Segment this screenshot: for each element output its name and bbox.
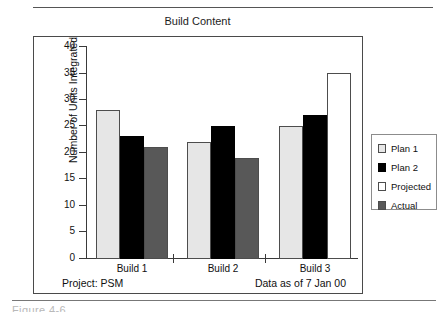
y-axis-tick bbox=[79, 231, 87, 232]
y-axis-tick-label: 10 bbox=[34, 200, 75, 210]
legend-item-plan-2: Plan 2 bbox=[378, 161, 418, 173]
legend-label-plan-1: Plan 1 bbox=[391, 143, 418, 154]
bar-build1-actual bbox=[144, 147, 168, 259]
y-axis-tick bbox=[79, 46, 87, 47]
y-axis-tick bbox=[79, 152, 87, 153]
legend-swatch-icon-actual bbox=[378, 201, 386, 210]
y-axis-tick bbox=[79, 258, 87, 259]
y-axis-tick bbox=[79, 99, 87, 100]
legend-swatch-icon-projected bbox=[378, 182, 386, 191]
y-axis-tick bbox=[79, 125, 87, 126]
legend-label-plan-2: Plan 2 bbox=[391, 162, 418, 173]
legend-item-projected: Projected bbox=[378, 180, 431, 192]
bar-build1-plan1 bbox=[96, 110, 120, 259]
figure-caption: Figure 4-6. bbox=[12, 304, 192, 312]
legend-label-actual: Actual bbox=[391, 200, 417, 211]
y-axis-tick bbox=[79, 73, 87, 74]
figure-top-rule bbox=[33, 7, 433, 8]
y-axis-tick-label: 35 bbox=[34, 68, 75, 78]
footer-data-date: Data as of 7 Jan 00 bbox=[255, 277, 346, 290]
y-axis-tick bbox=[79, 178, 87, 179]
plot-frame: Number of Units Integrated 40 35 30 25 2… bbox=[33, 36, 363, 294]
y-axis-tick-label: 20 bbox=[34, 147, 75, 157]
chart-title: Build Content bbox=[0, 15, 395, 28]
bar-build2-actual bbox=[235, 158, 259, 259]
x-axis-label-build-3: Build 3 bbox=[275, 263, 355, 275]
legend-item-plan-1: Plan 1 bbox=[378, 142, 418, 154]
y-axis-tick bbox=[79, 205, 87, 206]
x-axis-label-build-1: Build 1 bbox=[92, 263, 172, 275]
figure-bottom-rule bbox=[12, 300, 436, 301]
bar-build3-projected bbox=[327, 73, 351, 259]
bar-build2-plan1 bbox=[187, 142, 211, 259]
bar-build3-plan1 bbox=[279, 126, 303, 259]
x-axis-group-separator bbox=[173, 254, 174, 263]
y-axis-tick-label: 25 bbox=[34, 120, 75, 130]
legend-label-projected: Projected bbox=[391, 181, 431, 192]
bar-build1-plan2 bbox=[120, 136, 144, 259]
x-axis-label-build-2: Build 2 bbox=[183, 263, 263, 275]
y-axis-tick-label: 15 bbox=[34, 173, 75, 183]
x-axis-group-separator bbox=[265, 254, 266, 263]
y-axis-tick-label: 5 bbox=[34, 226, 75, 236]
legend-swatch-icon-plan-1 bbox=[378, 144, 386, 153]
y-axis-tick-label: 30 bbox=[34, 94, 75, 104]
y-axis-tick-label: 40 bbox=[34, 41, 75, 51]
legend-swatch-icon-plan-2 bbox=[378, 163, 386, 172]
footer-project-note: Project: PSM bbox=[62, 277, 123, 290]
y-axis-tick-label: 0 bbox=[34, 253, 75, 263]
chart-legend: Plan 1 Plan 2 Projected Actual bbox=[371, 134, 437, 210]
bar-build2-plan2 bbox=[211, 126, 235, 259]
legend-item-actual: Actual bbox=[378, 199, 417, 211]
bar-build3-plan2 bbox=[303, 115, 327, 259]
